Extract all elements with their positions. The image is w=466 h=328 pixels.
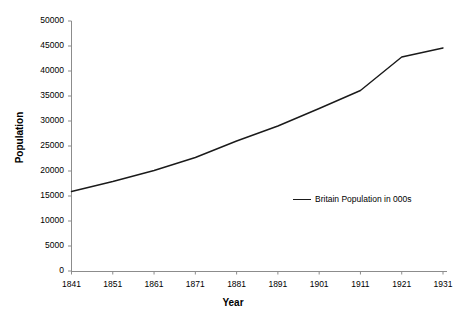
series-line-britain-population	[72, 48, 444, 192]
y-axis-tick-label: 5000	[24, 241, 64, 250]
legend-entry-label: Britain Population in 000s	[315, 194, 411, 204]
x-axis-title: Year	[0, 297, 466, 308]
x-axis-tick-label: 1921	[382, 280, 422, 289]
y-axis-title: Population	[14, 93, 25, 183]
y-axis-tick-label: 25000	[24, 141, 64, 150]
population-line-chart: 0500010000150002000025000300003500040000…	[0, 0, 466, 328]
x-axis-tick-label: 1911	[340, 280, 380, 289]
y-axis-tick-label: 15000	[24, 191, 64, 200]
y-axis-ticks	[68, 21, 72, 271]
x-axis-tick-label: 1871	[175, 280, 215, 289]
legend-line-swatch	[293, 199, 311, 200]
y-axis-tick-label: 40000	[24, 66, 64, 75]
y-axis-tick-label: 0	[24, 266, 64, 275]
y-axis-tick-label: 30000	[24, 116, 64, 125]
x-axis-tick-label: 1881	[217, 280, 257, 289]
y-axis-tick-label: 20000	[24, 166, 64, 175]
y-axis-tick-label: 50000	[24, 16, 64, 25]
x-axis-tick-label: 1901	[299, 280, 339, 289]
x-axis-tick-label: 1861	[134, 280, 174, 289]
x-axis-tick-label: 1851	[93, 280, 133, 289]
y-axis-tick-label: 10000	[24, 216, 64, 225]
chart-legend: Britain Population in 000s	[293, 194, 411, 204]
x-axis-tick-label: 1841	[52, 280, 92, 289]
y-axis-tick-label: 35000	[24, 91, 64, 100]
x-axis-tick-label: 1891	[258, 280, 298, 289]
x-axis-tick-label: 1931	[423, 280, 463, 289]
y-axis-tick-label: 45000	[24, 41, 64, 50]
